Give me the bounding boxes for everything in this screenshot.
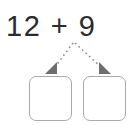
arrow-right-head <box>99 62 111 74</box>
arrow-left-line <box>55 43 73 67</box>
answer-box-left-value <box>30 77 71 120</box>
arrow-left-head <box>45 62 57 74</box>
answer-box-left[interactable] <box>29 76 72 121</box>
worksheet-canvas: 12 + 9 <box>0 0 130 125</box>
answer-box-right-value <box>84 77 125 120</box>
answer-box-right[interactable] <box>83 76 126 121</box>
arrow-right-line <box>75 43 101 67</box>
